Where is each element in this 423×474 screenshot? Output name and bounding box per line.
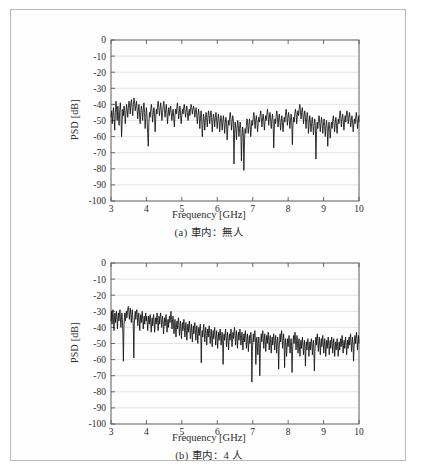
svg-text:-50: -50 bbox=[93, 339, 106, 349]
svg-text:-70: -70 bbox=[93, 371, 106, 381]
svg-text:-40: -40 bbox=[93, 323, 106, 333]
svg-text:-100: -100 bbox=[89, 419, 107, 429]
svg-text:-20: -20 bbox=[93, 68, 106, 78]
svg-text:-80: -80 bbox=[93, 164, 106, 174]
svg-text:-10: -10 bbox=[93, 275, 106, 285]
svg-text:-10: -10 bbox=[93, 52, 106, 62]
panel-caption-b: (b) 車内：4 人 bbox=[11, 447, 407, 462]
figure-panel-a: PSD [dB] 0-10-20-30-40-50-60-70-80-90-10… bbox=[11, 10, 407, 241]
svg-text:-60: -60 bbox=[93, 355, 106, 365]
svg-text:-70: -70 bbox=[93, 148, 106, 158]
svg-text:-90: -90 bbox=[93, 180, 106, 190]
psd-trace-1 bbox=[111, 306, 359, 382]
psd-chart-a: 0-10-20-30-40-50-60-70-80-90-10034567891… bbox=[11, 22, 407, 218]
svg-text:-30: -30 bbox=[93, 307, 106, 317]
psd-chart-b: 0-10-20-30-40-50-60-70-80-90-10034567891… bbox=[11, 245, 407, 441]
svg-text:-100: -100 bbox=[89, 196, 107, 206]
svg-text:-50: -50 bbox=[93, 116, 106, 126]
figure-frame: PSD [dB] 0-10-20-30-40-50-60-70-80-90-10… bbox=[10, 9, 406, 461]
psd-trace-0 bbox=[111, 98, 359, 170]
svg-text:-40: -40 bbox=[93, 100, 106, 110]
svg-text:-90: -90 bbox=[93, 403, 106, 413]
svg-text:0: 0 bbox=[101, 258, 106, 268]
figure-panel-b: PSD [dB] 0-10-20-30-40-50-60-70-80-90-10… bbox=[11, 241, 407, 462]
x-axis-label-a: Frequency [GHz] bbox=[11, 209, 407, 220]
svg-text:0: 0 bbox=[101, 35, 106, 45]
x-axis-label-b: Frequency [GHz] bbox=[11, 432, 407, 443]
svg-text:-20: -20 bbox=[93, 291, 106, 301]
svg-text:-30: -30 bbox=[93, 84, 106, 94]
svg-text:-60: -60 bbox=[93, 132, 106, 142]
svg-text:-80: -80 bbox=[93, 387, 106, 397]
panel-caption-a: (a) 車内：無人 bbox=[11, 224, 407, 239]
